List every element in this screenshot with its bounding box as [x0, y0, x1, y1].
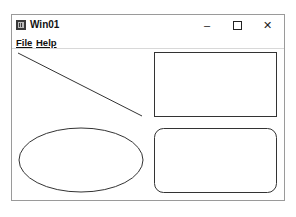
drawing-canvas — [0, 0, 296, 217]
drawn-line — [18, 53, 142, 116]
drawn-rectangle — [155, 53, 277, 117]
drawn-rounded-rectangle — [155, 129, 277, 193]
drawn-ellipse — [19, 128, 143, 192]
